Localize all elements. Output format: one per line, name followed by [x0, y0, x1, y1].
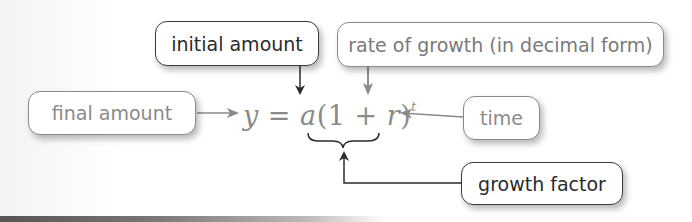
arrow-growth-factor: [344, 153, 461, 183]
label-growth-factor: growth factor: [461, 162, 623, 205]
eq-r: r: [387, 100, 400, 131]
eq-open-paren: (: [317, 100, 328, 131]
label-final-amount: final amount: [28, 91, 196, 135]
eq-close-paren: ): [400, 100, 411, 131]
eq-one: 1: [328, 100, 346, 131]
bottom-rule: [0, 216, 385, 222]
eq-a: a: [300, 100, 317, 131]
eq-exponent-t: t: [411, 100, 416, 114]
label-initial-amount: initial amount: [155, 21, 319, 66]
label-initial-amount-text: initial amount: [171, 33, 303, 55]
equation: y = a(1 + r)t: [243, 100, 417, 131]
label-rate-of-growth-text: rate of growth (in decimal form): [348, 34, 653, 56]
eq-plus: +: [355, 100, 378, 131]
label-growth-factor-text: growth factor: [478, 173, 606, 195]
eq-y: y: [243, 100, 259, 131]
label-rate-of-growth: rate of growth (in decimal form): [337, 22, 664, 67]
label-time-text: time: [480, 107, 523, 129]
label-final-amount-text: final amount: [52, 102, 172, 124]
brace-icon: [308, 133, 379, 148]
label-time: time: [463, 96, 540, 140]
eq-equals: =: [268, 100, 291, 131]
